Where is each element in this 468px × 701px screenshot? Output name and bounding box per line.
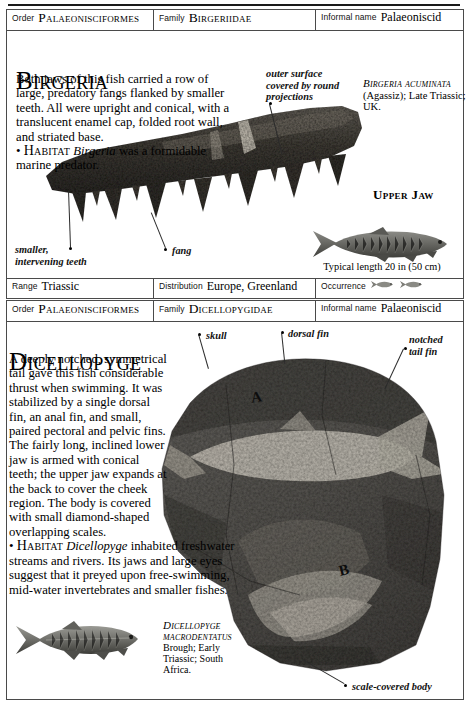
range-value: Triassic: [42, 279, 80, 294]
habitat-genus: Dicellopyge: [66, 539, 127, 553]
part-label-upper-jaw: Upper Jaw: [373, 187, 434, 203]
fish-glyph-icon: [370, 279, 396, 290]
informal-name-value: Palaeoniscid: [381, 10, 442, 25]
annotation-dorsal-fin: dorsal fin: [288, 328, 329, 340]
species-caption-birgeria: Birgeria acuminata (Agassiz); Late Trias…: [363, 78, 467, 113]
range-cell: Range Triassic: [7, 279, 153, 298]
entry-body-dicellopyge: A deeply notched, symmetrical tail gave …: [9, 352, 254, 597]
page-top-rule: [8, 4, 460, 6]
entry-panel-birgeria: Order Palaeonisciformes Family Birgeriid…: [6, 9, 464, 299]
annotation-skull: skull: [206, 330, 227, 342]
order-cell: Order Palaeonisciformes: [7, 10, 153, 30]
annotation-dot-tail-fin: [404, 347, 407, 350]
order-label: Order: [12, 304, 34, 314]
annotation-scale-covered-body: scale-covered body: [352, 681, 432, 693]
occurrence-icon-row: [370, 279, 425, 290]
informal-name-label: Informal name: [321, 12, 377, 22]
species-detail: Brough; Early Triassic; South Africa.: [163, 642, 223, 675]
occurrence-label: Occurrence: [321, 281, 366, 291]
distribution-label: Distribution: [159, 281, 203, 291]
informal-name-cell: Informal name Palaeoniscid: [315, 301, 463, 321]
species-name: Dicellopyge macrodentatus: [163, 620, 249, 642]
informal-name-cell: Informal name Palaeoniscid: [315, 10, 463, 30]
habitat-genus: Birgeria: [73, 144, 116, 158]
species-name: Birgeria acuminata: [363, 78, 467, 90]
annotation-fang: fang: [172, 245, 191, 257]
body-paragraph: A deeply notched, symmetrical tail gave …: [9, 352, 169, 539]
habitat-bullet: •: [9, 538, 14, 553]
habitat-paragraph: • Habitat Dicellopyge inhabited freshwat…: [9, 539, 254, 597]
taxonomy-header-birgeria: Order Palaeonisciformes Family Birgeriid…: [7, 10, 463, 31]
body-paragraph: Both jaws of this fish carried a row of …: [16, 72, 236, 144]
occurrence-cell: Occurrence: [315, 279, 463, 298]
order-cell: Order Palaeonisciformes: [7, 301, 153, 321]
species-caption-dicellopyge: Dicellopyge macrodentatus Brough; Early …: [163, 620, 249, 675]
habitat-bullet: •: [16, 143, 21, 158]
guide-page: Order Palaeonisciformes Family Birgeriid…: [0, 0, 468, 701]
taxonomy-header-dicellopyge: Order Palaeonisciformes Family Dicellopy…: [7, 301, 463, 322]
distribution-value: Europe, Greenland: [207, 279, 298, 294]
order-value: Palaeonisciformes: [38, 10, 139, 26]
family-value: Birgeriidae: [189, 10, 252, 26]
order-value: Palaeonisciformes: [38, 301, 139, 317]
habitat-label: Habitat: [17, 538, 63, 553]
species-detail: (Agassiz); Late Triassic; UK.: [363, 90, 466, 113]
range-label: Range: [12, 281, 38, 291]
fish-reconstruction-birgeria: [307, 225, 457, 265]
order-label: Order: [12, 13, 34, 23]
scale-caption-birgeria: Typical length 20 in (50 cm): [307, 261, 457, 272]
family-cell: Family Dicellopygidae: [153, 301, 315, 321]
fish-reconstruction-dicellopyge: [12, 618, 142, 664]
annotation-dot-fang: [164, 248, 167, 251]
fish-glyph-icon: [399, 279, 425, 290]
family-value: Dicellopygidae: [189, 301, 273, 317]
annotation-dot-smaller-teeth: [69, 247, 72, 250]
annotation-notched-tail-fin: notched tail fin: [409, 334, 463, 357]
informal-name-value: Palaeoniscid: [381, 301, 442, 316]
family-label: Family: [159, 304, 185, 314]
family-cell: Family Birgeriidae: [153, 10, 315, 30]
habitat-paragraph: • Habitat Birgeria was a formidable mari…: [16, 144, 236, 173]
entry-body-birgeria: Both jaws of this fish carried a row of …: [16, 72, 236, 173]
annotation-dot-scale-body: [344, 684, 347, 687]
occurrence-footer-birgeria: Range Triassic Distribution Europe, Gree…: [7, 278, 463, 298]
annotation-outer-surface: outer surface covered by round projectio…: [266, 68, 362, 103]
habitat-label: Habitat: [24, 143, 70, 158]
family-label: Family: [159, 13, 185, 23]
informal-name-label: Informal name: [321, 303, 377, 313]
distribution-cell: Distribution Europe, Greenland: [153, 279, 315, 298]
